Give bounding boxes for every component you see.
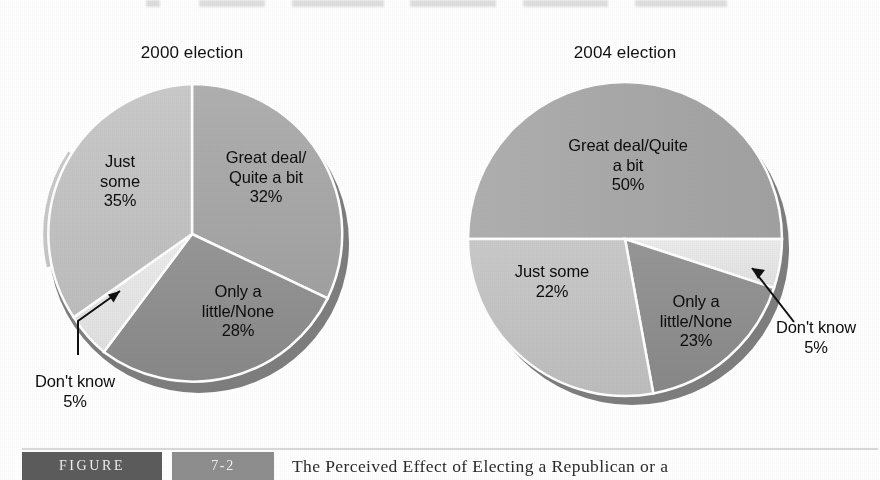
chart-title-2000: 2000 election [92, 43, 292, 63]
caption-rule [22, 448, 878, 450]
figure-label-chip: FIGURE [22, 452, 162, 480]
figure-caption-title: The Perceived Effect of Electing a Repub… [292, 452, 872, 480]
pie-2004-slice-great-deal[interactable] [468, 82, 782, 239]
pie-chart-2000 [34, 76, 354, 401]
pie-2004-slice-just-some[interactable] [468, 239, 653, 396]
pie-2000-svg [34, 76, 364, 406]
figure-number-chip: 7-2 [172, 452, 274, 480]
chart-title-2004: 2004 election [525, 43, 725, 63]
figure-canvas: 2000 election [0, 0, 880, 480]
pie-2004-svg [462, 76, 802, 416]
pie-2000-label-dont-know: Don't know 5% [0, 372, 150, 411]
pie-chart-2004 [462, 76, 794, 406]
page-top-text-bleed [120, 0, 780, 7]
pie-2004-label-dont-know: Don't know 5% [752, 318, 880, 357]
